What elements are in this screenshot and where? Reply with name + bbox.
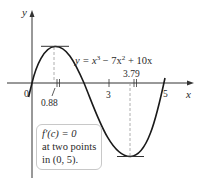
tick-label-5: 5 bbox=[163, 89, 168, 99]
leader-c1 bbox=[52, 88, 55, 96]
callout-line-2: at two points bbox=[42, 140, 101, 153]
tick-label-c2: 3.79 bbox=[123, 69, 140, 79]
callout-line-3: in (0, 5). bbox=[42, 153, 101, 166]
x-axis-arrow-icon bbox=[187, 81, 194, 86]
tick-label-3: 3 bbox=[106, 90, 111, 100]
y-axis-arrow-icon bbox=[30, 10, 35, 17]
callout-box: f′(c) = 0 at two points in (0, 5). bbox=[36, 124, 102, 170]
x-axis-label: x bbox=[185, 88, 191, 100]
equation-label: y = x3 − 7x2 + 10x bbox=[74, 54, 153, 66]
tick-label-c1: 0.88 bbox=[41, 98, 58, 108]
origin-label: 0 bbox=[24, 88, 29, 99]
y-axis-label: y bbox=[21, 6, 27, 18]
callout-line-1: f′(c) = 0 bbox=[42, 127, 101, 140]
